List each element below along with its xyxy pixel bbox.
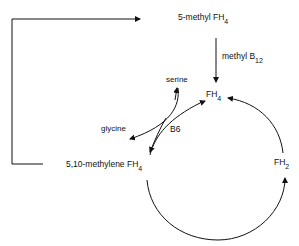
node-serine: serine (166, 76, 188, 84)
label-text: B6 (170, 124, 180, 134)
label-text: serine (166, 75, 188, 84)
node-5-10-methylene-fh4: 5,10-methylene FH4 (66, 160, 142, 172)
node-glycine: glycine (101, 125, 126, 133)
label-text: FH (274, 157, 285, 167)
node-fh2: FH2 (274, 158, 289, 170)
label-text: 5,10-methylene FH (66, 159, 138, 169)
loop-arrow-methylene-to-methyl (12, 19, 140, 164)
arc-fh2-to-fh4 (228, 98, 283, 153)
folate-cycle-diagram (0, 0, 299, 246)
label-subscript: 4 (224, 18, 228, 25)
node-fh4: FH4 (206, 90, 221, 102)
label-subscript: 2 (285, 163, 289, 170)
label-subscript: 4 (217, 95, 221, 102)
edge-label-methyl-b12: methyl B12 (222, 52, 263, 64)
label-subscript: 4 (138, 165, 142, 172)
label-text: methyl B (222, 51, 255, 61)
label-text: glycine (101, 124, 126, 133)
node-5-methyl-fh4: 5-methyl FH4 (178, 13, 228, 25)
edge-label-b6: B6 (170, 125, 180, 134)
label-subscript: 12 (255, 57, 263, 64)
arc-methylene-to-fh2 (147, 178, 285, 240)
label-text: FH (206, 89, 217, 99)
label-text: 5-methyl FH (178, 12, 224, 22)
